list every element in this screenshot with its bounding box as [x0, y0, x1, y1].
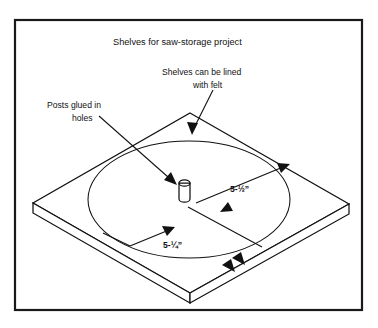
posts-note-line-2: holes	[72, 113, 93, 123]
figure-root: Shelves for saw-storage project Shelves …	[0, 0, 378, 328]
felt-note-line-1: Shelves can be lined	[162, 67, 242, 77]
felt-note-line-2: with felt	[192, 80, 223, 90]
dimension-label-inner: 5-¼”	[163, 240, 182, 250]
figure-title: Shelves for saw-storage project	[113, 37, 242, 47]
dimension-label-outer: 5-½”	[230, 184, 249, 194]
posts-note-line-1: Posts glued in	[47, 100, 101, 110]
board-top-face	[33, 113, 349, 293]
saw-storage-shelf-diagram: Shelves for saw-storage project Shelves …	[0, 0, 378, 328]
